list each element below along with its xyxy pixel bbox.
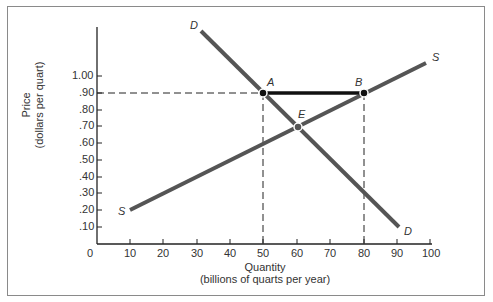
y-tick-label: .40 xyxy=(79,170,94,182)
x-tick-label: 40 xyxy=(224,247,236,259)
x-tick-label: 50 xyxy=(257,247,269,259)
x-tick-label: 70 xyxy=(324,247,336,259)
x-ticks xyxy=(130,239,430,244)
y-tick-label: .30 xyxy=(79,186,94,198)
x-tick-label: 20 xyxy=(157,247,169,259)
y-tick-label: .20 xyxy=(79,203,94,215)
supply-label-right: S xyxy=(432,51,439,63)
x-tick-label: 60 xyxy=(291,247,303,259)
point-a-label: A xyxy=(267,76,274,88)
chart-plot xyxy=(0,0,493,302)
x-axis-title-sub: (billions of quarts per year) xyxy=(150,273,380,285)
y-tick-label: .70 xyxy=(79,119,94,131)
point-e-label: E xyxy=(298,108,305,120)
y-tick-label: 1.00 xyxy=(72,69,93,81)
supply-label-left: S xyxy=(118,205,125,217)
y-ticks xyxy=(97,76,102,227)
x-tick-label: 0 xyxy=(87,247,93,259)
x-tick-label: 30 xyxy=(191,247,203,259)
point-b-label: B xyxy=(355,76,362,88)
y-tick-label: .10 xyxy=(79,220,94,232)
x-tick-label: 80 xyxy=(358,247,370,259)
demand-label-top: D xyxy=(190,19,198,31)
x-tick-label: 10 xyxy=(124,247,136,259)
y-tick-label: .60 xyxy=(79,136,94,148)
supply-curve xyxy=(130,63,426,210)
y-tick-label: .90 xyxy=(79,86,94,98)
y-axis-title-sub: (dollars per quart) xyxy=(33,40,46,170)
y-tick-label: .50 xyxy=(79,153,94,165)
y-axis-title: Price (dollars per quart) xyxy=(20,40,46,170)
y-axis-title-main: Price xyxy=(20,40,33,170)
x-axis-title-main: Quantity xyxy=(150,261,380,273)
point-b xyxy=(360,89,368,97)
point-a xyxy=(259,89,267,97)
x-tick-label: 100 xyxy=(422,247,440,259)
x-tick-label: 90 xyxy=(391,247,403,259)
x-axis-title: Quantity (billions of quarts per year) xyxy=(150,261,380,285)
demand-label-bottom: D xyxy=(404,225,412,237)
y-tick-label: .80 xyxy=(79,103,94,115)
point-e xyxy=(294,123,302,131)
